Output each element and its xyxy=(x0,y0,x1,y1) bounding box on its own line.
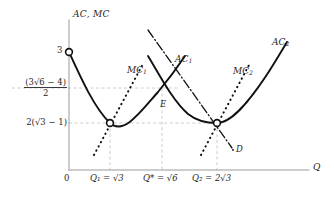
curve-label-ac1-sub: 1 xyxy=(188,57,192,64)
x-tick-q1: Q₁ = √3 xyxy=(90,174,124,183)
point-label-d: D xyxy=(236,145,243,154)
origin-label: 0 xyxy=(64,174,69,183)
curve-mc1 xyxy=(94,62,144,155)
x-axis-label: Q xyxy=(313,163,321,172)
curve-ac2 xyxy=(148,42,287,123)
curve-label-mc1-base: MC xyxy=(127,65,143,75)
curve-label-ac2-base: AC xyxy=(272,37,285,47)
guide-lines xyxy=(12,88,217,170)
y-axis-label: AC, MC xyxy=(73,10,110,19)
curve-label-ac2: AC2 xyxy=(272,38,289,47)
curve-label-mc2-base: MC xyxy=(233,66,249,76)
marker-min-ac1 xyxy=(107,120,114,127)
curve-label-mc2: MC2 xyxy=(233,67,253,76)
point-markers xyxy=(66,49,221,127)
curve-label-mc2-sub: 2 xyxy=(249,69,253,76)
marker-min-ac2 xyxy=(214,120,221,127)
fraction-denominator: 2 xyxy=(24,89,67,98)
curve-label-ac1-base: AC xyxy=(175,54,188,64)
curve-mc2 xyxy=(201,65,249,155)
curve-label-mc1-sub: 1 xyxy=(143,68,147,75)
y-tick-min-ac: 2(√3 − 1) xyxy=(17,118,67,127)
y-tick-3: 3 xyxy=(57,46,62,55)
curve-label-mc1: MC1 xyxy=(127,66,147,75)
fraction-numerator: (3√6 − 4) xyxy=(24,78,67,87)
point-label-e: E xyxy=(160,100,166,109)
marker-y-intercept xyxy=(66,49,73,56)
x-tick-q2: Q₂ = 2√3 xyxy=(192,174,231,183)
marker-demand-end xyxy=(232,149,234,151)
plot-canvas xyxy=(0,0,334,198)
economics-cost-curve-figure: AC, MC Q 0 3 (3√6 − 4) 2 2(√3 − 1) Q₁ = … xyxy=(0,0,334,198)
curve-label-ac1: AC1 xyxy=(175,55,192,64)
fraction-ac-star: (3√6 − 4) 2 xyxy=(24,78,67,98)
x-tick-q-star: Q* = √6 xyxy=(143,174,178,183)
curve-label-ac2-sub: 2 xyxy=(285,40,289,47)
y-tick-ac-star: (3√6 − 4) 2 xyxy=(13,78,67,98)
